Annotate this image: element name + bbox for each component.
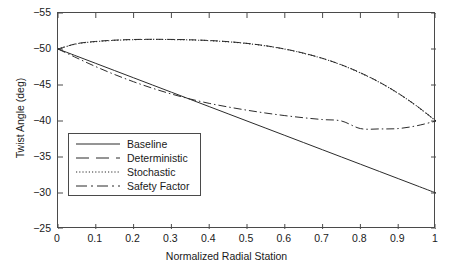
x-tick-label: 0.7 <box>307 233 337 244</box>
series-line-deterministic <box>58 39 436 121</box>
series-line-stochastic <box>58 39 436 121</box>
x-tick-label: 0.5 <box>231 233 261 244</box>
x-tick-label: 0.3 <box>155 233 185 244</box>
legend-line-sample-solid <box>74 138 122 150</box>
y-tick-label: −55 <box>21 7 51 18</box>
x-tick-label: 0.9 <box>382 233 412 244</box>
series-line-safety-factor <box>58 49 436 129</box>
legend-item-baseline: Baseline <box>69 137 200 151</box>
x-tick-label: 0.1 <box>80 233 110 244</box>
legend-line-sample-dashed <box>74 152 122 164</box>
x-tick-label: 0.4 <box>193 233 223 244</box>
legend-label-baseline: Baseline <box>127 139 167 150</box>
x-tick-label: 0.2 <box>118 233 148 244</box>
chart-legend: Baseline Deterministic Stochastic Safety… <box>68 133 201 196</box>
legend-label-stochastic: Stochastic <box>127 167 175 178</box>
legend-item-deterministic: Deterministic <box>69 151 200 165</box>
chart-lines-svg <box>58 13 436 229</box>
x-tick-label: 0.6 <box>269 233 299 244</box>
legend-item-stochastic: Stochastic <box>69 165 200 179</box>
y-axis-title: Twist Angle (deg) <box>14 38 26 198</box>
legend-item-safety-factor: Safety Factor <box>69 179 200 193</box>
x-tick-label: 0 <box>42 233 72 244</box>
x-axis-title: Normalized Radial Station <box>0 250 453 262</box>
figure-canvas: −55−50−45−40−35−30−25 00.10.20.30.40.50.… <box>0 0 453 271</box>
legend-label-deterministic: Deterministic <box>127 153 188 164</box>
y-tick-label: −25 <box>21 223 51 234</box>
x-tick-label: 1 <box>420 233 450 244</box>
legend-line-sample-dashdot <box>74 180 122 192</box>
x-tick-label: 0.8 <box>344 233 374 244</box>
legend-line-sample-dotted <box>74 166 122 178</box>
legend-label-safety-factor: Safety Factor <box>127 181 189 192</box>
